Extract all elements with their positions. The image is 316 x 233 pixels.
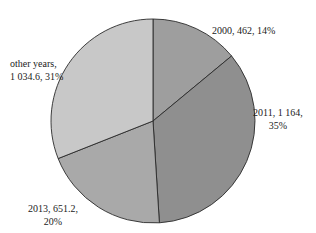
label-other-years: other years, 1 034.6, 31% (10, 57, 63, 83)
label-2011-line2: 35% (253, 119, 303, 132)
pie-slices (51, 19, 255, 223)
label-2013-line2: 20% (28, 215, 78, 228)
label-2011-line1: 2011, 1 164, (253, 106, 303, 119)
label-2000-text: 2000, 462, 14% (212, 25, 275, 36)
label-2011: 2011, 1 164, 35% (253, 106, 303, 132)
label-2013-line1: 2013, 651.2, (28, 202, 78, 215)
label-other-years-line1: other years, (10, 57, 63, 70)
label-2013: 2013, 651.2, 20% (28, 202, 78, 228)
label-other-years-line2: 1 034.6, 31% (10, 70, 63, 83)
label-2000: 2000, 462, 14% (212, 24, 275, 37)
